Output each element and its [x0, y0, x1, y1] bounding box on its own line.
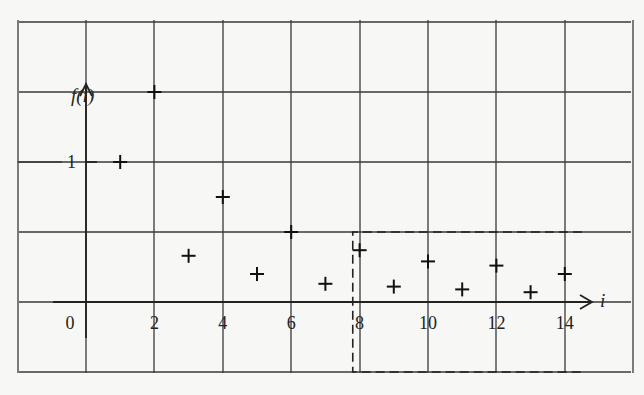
tick-labels: 024681012141 — [18, 152, 574, 333]
y-axis-label: f(i) — [71, 85, 94, 107]
data-points — [113, 85, 572, 299]
x-tick-label: 8 — [355, 313, 364, 333]
x-tick-label: 14 — [556, 313, 574, 333]
x-tick-label: 6 — [287, 313, 296, 333]
y-tick-label: 1 — [67, 152, 76, 172]
x-tick-label: 2 — [150, 313, 159, 333]
data-point-plus-icon — [113, 155, 127, 169]
grid — [18, 20, 633, 373]
data-point-plus-icon — [216, 190, 230, 204]
x-tick-label: 12 — [487, 313, 505, 333]
data-point-plus-icon — [250, 267, 264, 281]
data-point-plus-icon — [558, 267, 572, 281]
data-point-plus-icon — [524, 285, 538, 299]
data-point-plus-icon — [284, 225, 298, 239]
data-point-plus-icon — [387, 280, 401, 294]
x-tick-label: 4 — [218, 313, 227, 333]
x-axis-label: i — [600, 290, 605, 311]
data-point-plus-icon — [489, 259, 503, 273]
data-point-plus-icon — [421, 254, 435, 268]
data-point-plus-icon — [455, 282, 469, 296]
chart: 024681012141 f(i) i — [0, 0, 644, 395]
data-point-plus-icon — [182, 249, 196, 263]
x-tick-label: 0 — [66, 313, 75, 333]
data-point-plus-icon — [318, 277, 332, 291]
data-point-plus-icon — [147, 85, 161, 99]
axes — [53, 83, 592, 338]
data-point-plus-icon — [353, 243, 367, 257]
x-tick-label: 10 — [419, 313, 437, 333]
